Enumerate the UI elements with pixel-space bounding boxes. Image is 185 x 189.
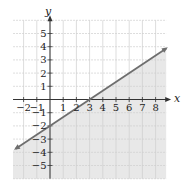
y-tick-label: −1 [32,107,47,118]
y-tick-label: 2 [40,68,46,79]
y-tick-label: −4 [32,147,47,158]
x-tick-label: 4 [100,102,106,113]
x-tick-label: 7 [139,102,145,113]
x-tick-label: 8 [152,102,158,113]
x-axis-label: x [174,92,181,105]
y-tick-label: 1 [40,81,46,92]
y-axis-label: y [44,5,52,18]
y-tick-label: 5 [40,28,46,39]
y-tick-label: 4 [40,41,46,52]
y-tick-label: −3 [32,134,47,145]
y-tick-label: 3 [40,54,46,65]
y-tick-label: −2 [32,120,47,131]
inequality-graph: −2−112345678−5−4−3−2−112345 x y [0,0,185,189]
x-tick-label: 6 [126,102,132,113]
x-tick-label: 5 [113,102,119,113]
x-tick-label: 2 [73,102,79,113]
x-tick-label: 1 [60,102,66,113]
x-tick-label: 3 [86,102,92,113]
x-axis-arrow-icon [165,97,171,102]
y-tick-label: −5 [32,160,47,171]
